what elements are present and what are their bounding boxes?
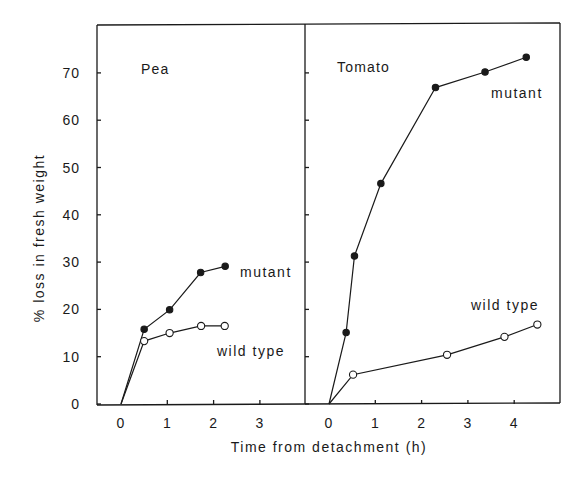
data-point-pea-wild-type xyxy=(166,329,173,336)
y-tick-label: 50 xyxy=(62,160,80,176)
y-tick-label: 60 xyxy=(62,112,80,128)
y-axis-label: % loss in fresh weight xyxy=(31,154,47,322)
data-point-pea-wild-type xyxy=(141,337,148,344)
data-point-tomato-wild-type xyxy=(349,371,356,378)
x-tick-label: 2 xyxy=(417,415,426,431)
data-point-tomato-mutant xyxy=(523,54,529,60)
data-point-tomato-mutant xyxy=(351,253,357,259)
legend-label-tomato-mutant: mutant xyxy=(491,85,543,101)
plot-frame xyxy=(97,23,560,405)
legend-label-tomato-wild-type: wild type xyxy=(470,297,539,313)
y-axis-ticks: 010203040506070 xyxy=(62,65,309,412)
x-tick-label: 1 xyxy=(163,415,172,431)
data-point-tomato-wild-type xyxy=(501,333,508,340)
y-tick-label: 10 xyxy=(62,349,80,365)
data-point-pea-wild-type xyxy=(197,322,204,329)
y-tick-label: 40 xyxy=(62,207,80,223)
x-tick-label: 0 xyxy=(117,415,126,431)
panel-title-pea: Pea xyxy=(141,61,170,77)
x-tick-label: 3 xyxy=(464,415,473,431)
data-point-tomato-mutant xyxy=(432,84,438,90)
legend-label-pea-wild-type: wild type xyxy=(216,343,285,359)
data-point-tomato-wild-type xyxy=(443,351,450,358)
x-tick-label: 1 xyxy=(371,415,380,431)
data-point-tomato-mutant xyxy=(378,180,384,186)
x-tick-label: 2 xyxy=(209,415,218,431)
legend-label-pea-mutant: mutant xyxy=(240,264,292,280)
y-tick-label: 0 xyxy=(71,396,80,412)
panel-title-tomato: Tomato xyxy=(337,59,390,75)
x-axis-label: Time from detachment (h) xyxy=(231,439,428,455)
data-point-pea-mutant xyxy=(166,307,172,313)
series-line-tomato-mutant xyxy=(329,57,526,404)
data-series xyxy=(121,54,541,404)
data-point-pea-mutant xyxy=(222,263,228,269)
data-point-tomato-mutant xyxy=(343,329,349,335)
data-point-pea-mutant xyxy=(141,326,147,332)
data-point-pea-wild-type xyxy=(221,322,228,329)
data-point-tomato-mutant xyxy=(482,69,488,75)
x-tick-label: 4 xyxy=(510,415,519,431)
x-tick-label: 0 xyxy=(325,415,334,431)
y-tick-label: 20 xyxy=(62,301,80,317)
x-tick-label: 3 xyxy=(256,415,265,431)
data-point-tomato-wild-type xyxy=(534,321,541,328)
chart-canvas: 010203040506070 012301234 Pea Tomato mut… xyxy=(0,0,587,477)
y-tick-label: 30 xyxy=(62,254,80,270)
series-line-pea-wild-type xyxy=(121,326,225,404)
y-tick-label: 70 xyxy=(62,65,80,81)
data-point-pea-mutant xyxy=(197,269,203,275)
